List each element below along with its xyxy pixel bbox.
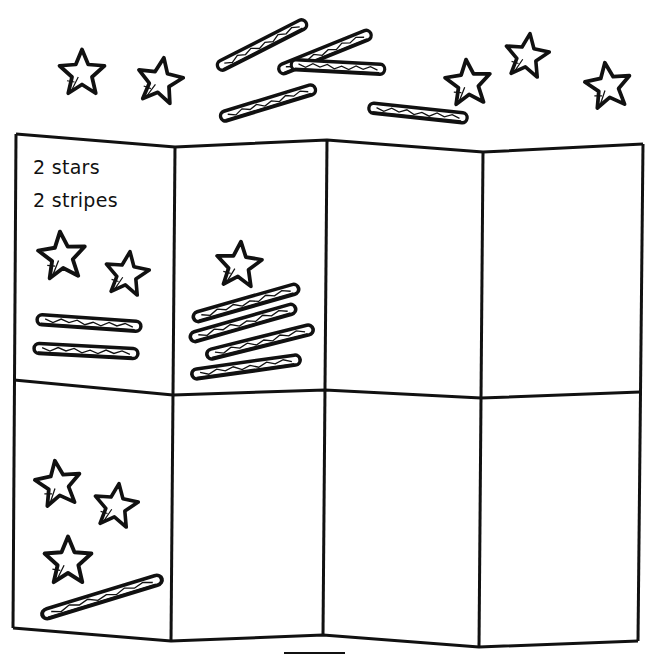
star-icon (134, 54, 186, 105)
star-icon (583, 60, 634, 110)
worksheet-drawing (0, 0, 652, 654)
panel-2 (189, 240, 314, 380)
panel-5 (33, 458, 164, 620)
star-icon (215, 240, 264, 288)
star-icon (45, 537, 92, 583)
stripe-icon (368, 103, 467, 123)
star-icon (60, 50, 105, 94)
panel-1-stripes-label: 2 stripes (33, 189, 118, 211)
star-icon (92, 481, 141, 529)
star-icon (103, 249, 152, 297)
star-icon (37, 230, 88, 279)
panel-1-stars-label: 2 stars (33, 156, 100, 178)
star-icon (444, 58, 493, 106)
top-bank (60, 18, 634, 123)
stripe-icon (219, 84, 316, 122)
panel-1 (34, 230, 152, 359)
stripe-icon (34, 343, 138, 358)
star-icon (33, 458, 84, 508)
star-icon (503, 31, 552, 79)
stripe-icon (37, 314, 141, 331)
stripe-icon (291, 60, 385, 75)
